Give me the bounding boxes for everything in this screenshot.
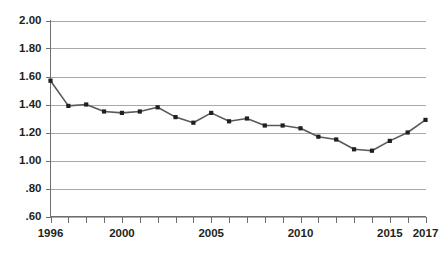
y-tick-label: 1.20 <box>19 126 41 138</box>
chart-canvas: .60.801.001.201.401.601.802.00 199620002… <box>0 0 442 258</box>
data-point-marker <box>316 135 320 139</box>
data-point-marker <box>281 123 285 127</box>
y-tick-label: 1.80 <box>19 42 41 54</box>
data-point-marker <box>388 139 392 143</box>
y-tick-labels: .60.801.001.201.401.601.802.00 <box>19 14 41 222</box>
x-tick-label: 2010 <box>288 227 314 239</box>
data-markers <box>48 79 427 153</box>
data-point-marker <box>352 147 356 151</box>
data-point-marker <box>191 121 195 125</box>
data-point-marker <box>48 79 52 83</box>
data-point-marker <box>370 149 374 153</box>
y-axis <box>46 20 51 218</box>
y-tick-label: 1.40 <box>19 98 41 110</box>
x-tick-label: 2015 <box>377 227 403 239</box>
data-point-marker <box>138 109 142 113</box>
data-point-marker <box>263 123 267 127</box>
data-point-marker <box>245 116 249 120</box>
data-point-marker <box>120 111 124 115</box>
data-series <box>51 81 426 151</box>
data-point-marker <box>227 119 231 123</box>
data-point-marker <box>406 130 410 134</box>
data-point-marker <box>156 105 160 109</box>
data-point-marker <box>102 109 106 113</box>
line-chart: .60.801.001.201.401.601.802.00 199620002… <box>0 0 442 258</box>
x-tick-labels: 199620002005201020152017 <box>38 227 439 239</box>
data-point-marker <box>209 111 213 115</box>
y-tick-label: 1.00 <box>19 154 41 166</box>
series-line <box>51 81 426 151</box>
data-point-marker <box>66 104 70 108</box>
x-tick-label: 2000 <box>109 227 135 239</box>
data-point-marker <box>173 115 177 119</box>
data-point-marker <box>84 102 88 106</box>
x-tick-label: 2017 <box>413 227 439 239</box>
data-point-marker <box>334 137 338 141</box>
y-tick-label: .80 <box>26 182 42 194</box>
x-tick-label: 2005 <box>198 227 224 239</box>
data-point-marker <box>423 118 427 122</box>
y-tick-label: 1.60 <box>19 70 41 82</box>
y-tick-label: .60 <box>26 210 42 222</box>
data-point-marker <box>298 126 302 130</box>
x-tick-label: 1996 <box>38 227 64 239</box>
y-tick-label: 2.00 <box>19 14 41 26</box>
